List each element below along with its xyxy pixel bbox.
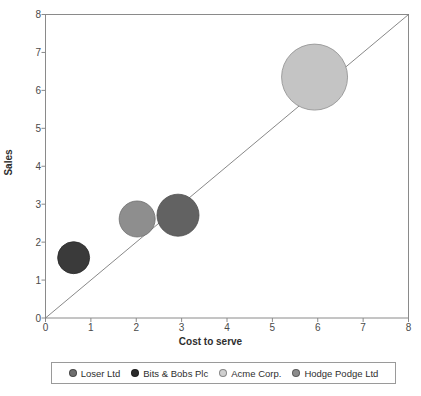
y-tick-label-6: 6: [27, 85, 41, 96]
x-tick-label-4: 4: [220, 322, 234, 333]
bubble-bits-bobs-plc: [119, 201, 155, 237]
y-tick-label-5: 5: [27, 123, 41, 134]
x-tick-label-1: 1: [84, 322, 98, 333]
legend-marker-icon: [219, 369, 227, 377]
x-tick-label-7: 7: [356, 322, 370, 333]
y-tick-label-1: 1: [27, 275, 41, 286]
legend-item-2[interactable]: Acme Corp.: [219, 368, 281, 379]
x-tick-label-3: 3: [175, 322, 189, 333]
y-tick-label-3: 3: [27, 199, 41, 210]
chart-legend: Loser LtdBits & Bobs PlcAcme Corp.Hodge …: [51, 362, 396, 384]
legend-item-label: Bits & Bobs Plc: [143, 368, 208, 379]
y-axis-title: Sales: [3, 141, 14, 185]
legend-item-label: Acme Corp.: [231, 368, 281, 379]
legend-marker-icon: [69, 369, 77, 377]
legend-item-1[interactable]: Bits & Bobs Plc: [131, 368, 208, 379]
y-tick-label-7: 7: [27, 47, 41, 58]
legend-item-label: Loser Ltd: [81, 368, 121, 379]
y-tick-label-4: 4: [27, 161, 41, 172]
bubble-hodge-podge-ltd: [282, 44, 348, 110]
x-tick-label-0: 0: [39, 322, 53, 333]
bubble-loser-ltd: [58, 242, 90, 274]
diagonal-parity-line: [46, 15, 409, 319]
legend-item-3[interactable]: Hodge Podge Ltd: [292, 368, 378, 379]
legend-item-label: Hodge Podge Ltd: [304, 368, 378, 379]
x-tick-label-8: 8: [402, 322, 416, 333]
x-tick-label-6: 6: [311, 322, 325, 333]
y-tick-label-8: 8: [27, 9, 41, 20]
legend-marker-icon: [131, 369, 139, 377]
x-tick-label-2: 2: [129, 322, 143, 333]
bubble-group: [58, 44, 348, 274]
x-axis-title: Cost to serve: [0, 336, 421, 347]
legend-marker-icon: [292, 369, 300, 377]
y-tick-label-2: 2: [27, 237, 41, 248]
legend-item-0[interactable]: Loser Ltd: [69, 368, 121, 379]
x-tick-label-5: 5: [265, 322, 279, 333]
bubble-chart: 8 7 6 5 4 3 2 1 0 0 1 2 3 4 5 6 7 8 Cost…: [0, 0, 421, 396]
bubble-acme-corp: [157, 194, 199, 236]
